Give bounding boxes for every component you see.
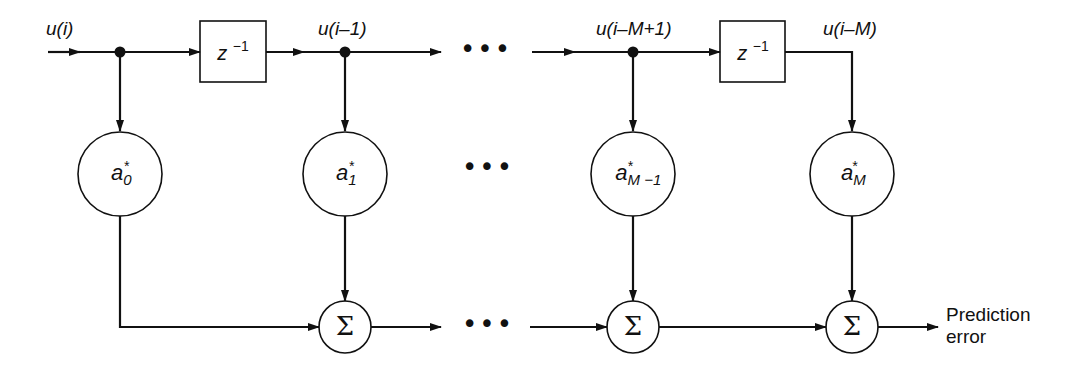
coef-label-m1: aM −1* xyxy=(595,158,675,188)
summer-label-1: Σ xyxy=(319,311,371,341)
signal-label-tap1: u(i–1) xyxy=(318,18,367,40)
ellipsis-top: ••• xyxy=(460,34,512,64)
signal-label-input: u(i) xyxy=(46,18,73,40)
summer-label-m1: Σ xyxy=(607,311,659,341)
coef-0-output-line xyxy=(120,216,319,327)
ellipsis-middle: ••• xyxy=(462,152,514,182)
output-label-line2: error xyxy=(946,326,1031,348)
delay-label-2: z −1 xyxy=(720,38,786,65)
summer-label-m: Σ xyxy=(826,311,878,341)
ellipsis-bottom: ••• xyxy=(462,309,514,339)
diagram-canvas xyxy=(0,0,1085,371)
coef-label-0: a0* xyxy=(90,158,150,188)
line-from-delay-2 xyxy=(785,52,852,131)
coef-label-1: a1* xyxy=(315,158,375,188)
delay-label-1: z −1 xyxy=(200,38,266,65)
output-label-line1: Prediction xyxy=(946,304,1031,326)
junction-dot-m1 xyxy=(628,47,639,58)
output-label: Prediction error xyxy=(946,304,1031,348)
junction-dot-0 xyxy=(115,47,126,58)
signal-label-tapM1: u(i–M+1) xyxy=(596,18,672,40)
signal-label-tapM: u(i–M) xyxy=(823,18,877,40)
junction-dot-1 xyxy=(340,47,351,58)
coef-label-m: aM* xyxy=(820,158,884,188)
